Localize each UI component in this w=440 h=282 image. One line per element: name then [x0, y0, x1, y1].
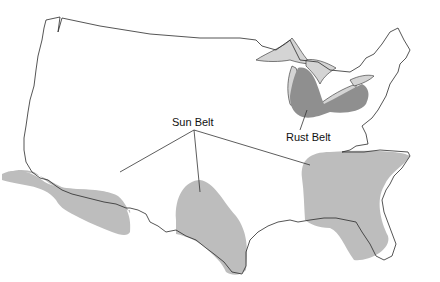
us-map: Sun Belt Rust Belt [0, 0, 440, 282]
sun-belt-label: Sun Belt [172, 116, 214, 128]
sun-belt-southeast [302, 151, 410, 260]
sun-belt-leader-west [120, 130, 194, 172]
map-canvas [0, 0, 440, 282]
rust-belt [290, 68, 369, 118]
rust-belt-label: Rust Belt [286, 131, 331, 143]
sun-belt-texas [176, 180, 247, 275]
